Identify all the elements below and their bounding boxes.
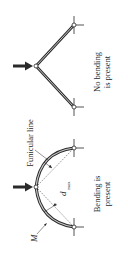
funicular-line-label: Funicular line — [25, 119, 35, 167]
dmax-dimension — [44, 162, 57, 212]
funicular-leader — [35, 150, 48, 160]
dmax-subscript: max — [66, 181, 71, 190]
straight-member-lower — [36, 66, 74, 107]
moment-leader-arrow — [37, 223, 47, 234]
pin-support-bottom — [72, 98, 84, 116]
straight-member-upper — [36, 25, 74, 66]
funicular-comparison-figure: No bending is present — [0, 0, 128, 272]
dmax-label: d — [58, 191, 68, 196]
caption-no-bending: No bending — [92, 51, 102, 92]
apex-hinge — [34, 64, 38, 68]
load-arrow-icon-2 — [13, 183, 33, 192]
apex-hinge-2 — [34, 185, 38, 189]
caption-no-bending-line2: is present — [102, 55, 112, 88]
caption-bending-line2: present — [102, 181, 112, 206]
caption-bending: Bending is — [92, 176, 102, 213]
load-arrow-icon — [13, 62, 33, 71]
curved-member-diagram: d max Funicular line M Bending is presen… — [13, 119, 112, 243]
straight-member-diagram: No bending is present — [13, 16, 112, 116]
moment-label: M — [29, 234, 39, 243]
pin-support-top-2 — [72, 139, 84, 157]
pin-support-bottom-2 — [72, 218, 84, 236]
pin-support-top — [72, 16, 84, 34]
